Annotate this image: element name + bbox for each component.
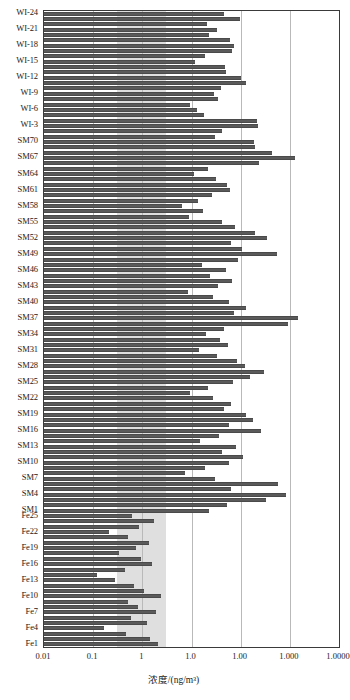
bar-row <box>44 129 339 133</box>
y-axis-tick-label: WI-24 <box>16 8 38 17</box>
bar-row <box>44 17 339 21</box>
bar-row <box>44 594 339 598</box>
bar-row <box>44 338 339 342</box>
bar <box>44 535 128 539</box>
bar <box>44 54 205 58</box>
bar <box>44 551 119 555</box>
bar <box>44 584 134 588</box>
x-axis-tick-label: 0.01 <box>36 651 51 661</box>
bar <box>44 519 154 523</box>
bar <box>44 487 231 491</box>
bar <box>44 183 227 187</box>
bar <box>44 263 202 267</box>
bar <box>44 28 217 32</box>
bar <box>44 274 210 278</box>
bar-row <box>44 391 339 395</box>
bar <box>44 391 190 395</box>
bar <box>44 418 253 422</box>
bar <box>44 380 233 384</box>
bar <box>44 616 131 620</box>
plot-area <box>43 10 340 648</box>
bar-row <box>44 589 339 593</box>
bar <box>44 450 222 454</box>
bar-row <box>44 471 339 475</box>
bar-row <box>44 568 339 572</box>
y-axis-tick-label: SM37 <box>18 313 38 322</box>
bar-row <box>44 322 339 326</box>
bar <box>44 300 229 304</box>
bar-row <box>44 70 339 74</box>
bar-row <box>44 519 339 523</box>
bar-row <box>44 535 339 539</box>
bar-row <box>44 621 339 625</box>
bar-row <box>44 172 339 176</box>
bar <box>44 343 228 347</box>
bar-row <box>44 81 339 85</box>
bar-row <box>44 54 339 58</box>
bar <box>44 445 236 449</box>
bar <box>44 621 147 625</box>
bar <box>44 199 198 203</box>
x-gridline <box>339 11 340 647</box>
x-axis-tick-label: 1 <box>139 651 143 661</box>
bar-row <box>44 578 339 582</box>
bar-row <box>44 22 339 26</box>
bar <box>44 493 286 497</box>
bar-row <box>44 332 339 336</box>
bar <box>44 594 161 598</box>
x-axis-tick-label: 1.00 <box>232 651 247 661</box>
bar-row <box>44 108 339 112</box>
bar-row <box>44 429 339 433</box>
bar <box>44 573 97 577</box>
bar-row <box>44 295 339 299</box>
bar <box>44 151 272 155</box>
bar <box>44 172 194 176</box>
y-axis-labels: WI-24WI-21WI-18WI-15WI-12WI-9WI-6WI-3SM7… <box>0 10 41 648</box>
bar-row <box>44 145 339 149</box>
y-axis-tick-label: SM28 <box>18 361 38 370</box>
bar-row <box>44 482 339 486</box>
bar-row <box>44 209 339 213</box>
bar-row <box>44 44 339 48</box>
bar <box>44 12 224 16</box>
bar <box>44 610 156 614</box>
bar <box>44 188 230 192</box>
bar <box>44 546 136 550</box>
bar-row <box>44 167 339 171</box>
y-axis-tick-label: WI-6 <box>20 104 38 113</box>
y-axis-tick-label: Fe7 <box>26 607 38 616</box>
bar <box>44 44 234 48</box>
bar <box>44 17 240 21</box>
bar <box>44 225 235 229</box>
bar-row <box>44 225 339 229</box>
y-axis-tick-label: SM49 <box>18 249 38 258</box>
bar <box>44 562 152 566</box>
bar-row <box>44 263 339 267</box>
bar-row <box>44 38 339 42</box>
bar <box>44 306 246 310</box>
y-axis-tick-label: SM22 <box>18 393 38 402</box>
bar <box>44 482 278 486</box>
bar-row <box>44 423 339 427</box>
y-axis-tick-label: WI-21 <box>16 24 38 33</box>
bar-row <box>44 477 339 481</box>
bar-row <box>44 626 339 630</box>
bar <box>44 354 217 358</box>
bar <box>44 252 277 256</box>
bar <box>44 541 149 545</box>
bar-row <box>44 119 339 123</box>
y-axis-tick-label: SM7 <box>22 473 38 482</box>
bar <box>44 161 259 165</box>
bar <box>44 236 267 240</box>
y-axis-tick-label: SM25 <box>18 377 38 386</box>
bar <box>44 386 208 390</box>
bar <box>44 455 243 459</box>
y-axis-tick-label: WI-18 <box>16 40 38 49</box>
y-axis-tick-label: SM19 <box>18 409 38 418</box>
bar-row <box>44 199 339 203</box>
y-axis-tick-label: SM70 <box>18 136 38 145</box>
bar <box>44 279 232 283</box>
bar-row <box>44 65 339 69</box>
bar-row <box>44 156 339 160</box>
